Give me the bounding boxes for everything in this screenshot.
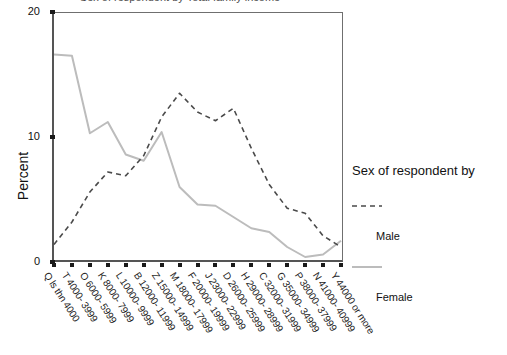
y-axis-title: Percent bbox=[15, 131, 31, 221]
x-tick-mark bbox=[249, 263, 253, 267]
legend-entry-female[interactable]: Female bbox=[352, 244, 504, 303]
series-line-male bbox=[54, 93, 341, 247]
legend-swatch-dashed bbox=[352, 201, 504, 211]
x-tick-mark bbox=[231, 263, 235, 267]
y-tick-label: 10 bbox=[6, 130, 40, 142]
legend-label-male: Male bbox=[376, 230, 504, 242]
chart-title: Sex of respondent by Total family income bbox=[0, 0, 360, 3]
legend-label-female: Female bbox=[376, 291, 504, 303]
x-tick-mark bbox=[70, 263, 74, 267]
x-tick-mark bbox=[142, 263, 146, 267]
x-tick-mark bbox=[124, 263, 128, 267]
legend-swatch-solid bbox=[352, 262, 504, 272]
x-tick-mark bbox=[321, 263, 325, 267]
series-line-female bbox=[54, 55, 341, 258]
x-tick-mark bbox=[285, 263, 289, 267]
x-tick-mark bbox=[88, 263, 92, 267]
legend-entry-male[interactable]: Male bbox=[352, 183, 504, 242]
plot-area bbox=[52, 12, 343, 262]
legend-title: Sex of respondent by bbox=[352, 163, 504, 178]
x-tick-mark bbox=[196, 263, 200, 267]
legend: Sex of respondent by Male Female bbox=[352, 163, 504, 305]
x-tick-mark bbox=[303, 263, 307, 267]
x-tick-mark bbox=[213, 263, 217, 267]
x-tick-mark bbox=[178, 263, 182, 267]
x-tick-mark bbox=[160, 263, 164, 267]
x-tick-mark bbox=[267, 263, 271, 267]
y-tick-mark bbox=[50, 10, 55, 14]
x-tick-mark bbox=[52, 263, 56, 267]
y-tick-mark bbox=[50, 135, 55, 139]
y-tick-label: 20 bbox=[6, 5, 40, 17]
y-tick-label: 0 bbox=[6, 255, 40, 267]
x-tick-mark bbox=[339, 263, 343, 267]
x-tick-mark bbox=[106, 263, 110, 267]
